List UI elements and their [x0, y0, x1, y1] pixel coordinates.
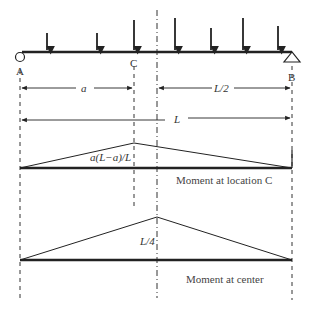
support-a-pin-icon — [16, 53, 25, 62]
dimension-a-label: a — [81, 82, 87, 94]
moment-center-peak-label: L/4 — [139, 235, 155, 247]
influence-diagram: A C B a L/2 L a(L−a)/L Moment at locatio… — [0, 0, 311, 310]
moment-c-caption: Moment at location C — [176, 174, 272, 186]
moment-c-peak-label: a(L−a)/L — [90, 151, 131, 164]
dimension-half-span-label: L/2 — [213, 82, 229, 94]
support-b-roller-icon — [284, 52, 300, 62]
label-b: B — [288, 71, 295, 83]
moment-diagram-center — [20, 217, 292, 260]
label-c: C — [130, 57, 137, 69]
dimension-span-label: L — [173, 113, 180, 125]
moment-diagram-c — [20, 143, 292, 168]
label-a: A — [16, 65, 24, 77]
dimension-span — [22, 118, 290, 120]
moment-center-caption: Moment at center — [186, 273, 264, 285]
load-arrows — [47, 18, 278, 50]
reference-lines — [20, 10, 292, 300]
